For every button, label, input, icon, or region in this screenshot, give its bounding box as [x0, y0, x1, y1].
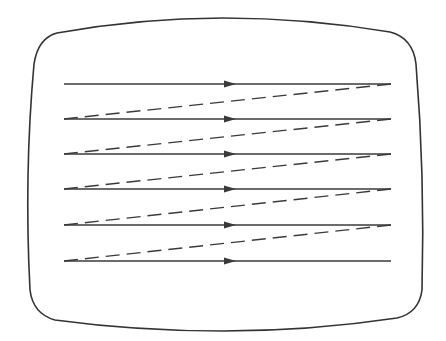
background: [0, 0, 446, 341]
raster-scan-diagram: [0, 0, 446, 341]
